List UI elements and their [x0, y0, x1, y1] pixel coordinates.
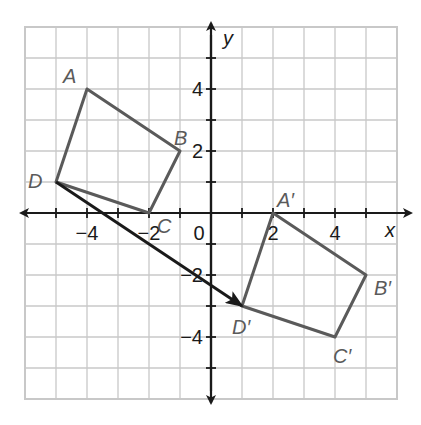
y-axis-label: y: [221, 27, 234, 49]
vertex-label: B: [174, 127, 187, 149]
y-tick-label: 2: [192, 140, 203, 162]
coordinate-plane: −4−22442−2−40xy ABCDA′B′C′D′: [0, 0, 421, 425]
tick-labels: −4−22442−2−40xy: [76, 27, 396, 348]
x-tick-label: 4: [329, 222, 340, 244]
y-tick-label: 4: [192, 78, 203, 100]
vertex-label: B′: [374, 277, 392, 299]
x-tick-label: −4: [76, 222, 99, 244]
axes: [21, 23, 411, 403]
vertex-label: D: [28, 170, 42, 192]
vertex-label: C′: [333, 345, 352, 367]
x-axis-label: x: [384, 219, 396, 241]
y-tick-label: −4: [180, 326, 203, 348]
vertex-label: C: [157, 215, 172, 237]
vertex-label: D′: [232, 316, 251, 338]
vertex-label: A′: [276, 189, 295, 211]
origin-label: 0: [193, 222, 204, 244]
vertex-label: A: [62, 65, 76, 87]
